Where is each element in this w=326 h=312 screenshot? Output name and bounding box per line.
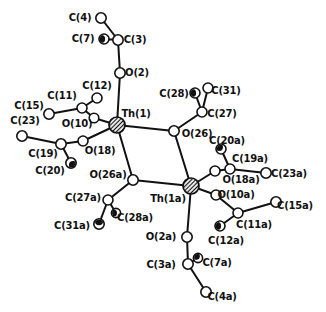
atom-C27 — [197, 107, 207, 117]
atom-label-C31: C(31) — [211, 85, 240, 96]
atom-label-O18: O(18) — [85, 145, 116, 156]
atom-C11a — [233, 208, 243, 218]
atom-label-C3: C(3) — [124, 34, 147, 45]
atom-label-C12a: C(12a) — [208, 235, 244, 246]
atom-label-C28: C(28) — [159, 88, 188, 99]
atom-label-O10a: O(10a) — [217, 189, 254, 200]
atom-labels: C(4)C(7)C(3)O(2)C(12)C(11)C(15)C(23)O(10… — [10, 12, 313, 302]
atom-C23 — [17, 131, 27, 141]
molecule-svg: C(4)C(7)C(3)O(2)C(12)C(11)C(15)C(23)O(10… — [0, 0, 326, 312]
atom-C3a — [183, 259, 193, 269]
atom-label-C20a: C(20a) — [209, 135, 245, 146]
atom-C3 — [113, 35, 123, 45]
atom-label-C23a: C(23a) — [271, 168, 307, 179]
atom-C7a — [193, 253, 203, 263]
atom-label-O26a: O(26a) — [89, 169, 126, 180]
atom-label-Th1a: Th(1a) — [150, 193, 186, 204]
molecular-structure-figure: C(4)C(7)C(3)O(2)C(12)C(11)C(15)C(23)O(10… — [0, 0, 326, 312]
atom-O2a — [182, 232, 192, 242]
atom-C20 — [66, 158, 77, 169]
atom-C4 — [96, 13, 106, 23]
atom-label-C15: C(15) — [14, 100, 43, 111]
atom-label-C12: C(12) — [82, 80, 111, 91]
atom-label-C11a: C(11a) — [236, 219, 272, 230]
atom-label-C4a: C(4a) — [207, 291, 236, 302]
atom-C11 — [77, 103, 87, 113]
atom-C12 — [92, 93, 102, 103]
atom-O26 — [169, 126, 179, 136]
atom-label-C28a: C(28a) — [117, 212, 153, 223]
atom-label-O2: O(2) — [125, 67, 149, 78]
atom-label-C31a: C(31a) — [54, 220, 90, 231]
atom-label-O10: O(10) — [62, 118, 93, 129]
atom-label-C20: C(20) — [35, 165, 64, 176]
atom-label-C7a: C(7a) — [202, 257, 231, 268]
atom-O2 — [115, 68, 125, 78]
atom-C23a — [261, 168, 271, 178]
atom-label-C4: C(4) — [69, 12, 92, 23]
atom-O26a — [128, 175, 138, 185]
atom-C27a — [103, 195, 113, 205]
atom-label-Th1: Th(1) — [121, 108, 150, 119]
atom-C28 — [188, 88, 200, 98]
atom-label-C3a: C(3a) — [146, 259, 175, 270]
atom-label-O26: O(26) — [182, 128, 213, 139]
atom-label-C19: C(19) — [28, 148, 57, 159]
atom-O18a — [210, 166, 220, 176]
atom-label-C27: C(27) — [207, 108, 236, 119]
atom-label-C27a: C(27a) — [65, 192, 101, 203]
atom-label-O2a: O(2a) — [146, 231, 176, 242]
atom-C31a — [94, 217, 104, 229]
atom-label-C19a: C(19a) — [232, 153, 268, 164]
atom-C7 — [97, 34, 109, 44]
atom-C15 — [44, 109, 54, 119]
atom-label-C23: C(23) — [10, 115, 39, 126]
atom-label-O18a: O(18a) — [222, 174, 259, 185]
atom-label-C7: C(7) — [72, 33, 95, 44]
atom-label-C15a: C(15a) — [277, 200, 313, 211]
atom-C12a — [213, 221, 225, 231]
atom-Th1 — [109, 117, 125, 133]
atom-C19a — [225, 164, 235, 174]
atom-label-C11: C(11) — [47, 90, 76, 101]
